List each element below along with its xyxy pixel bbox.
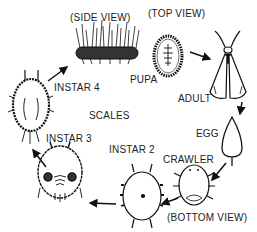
- adult-drawing: [210, 31, 246, 98]
- arrow-adult-to-egg: [240, 102, 242, 114]
- pupa-side-view-drawing: [76, 20, 139, 64]
- egg-drawing: [222, 117, 242, 166]
- instar-3-label: INSTAR 3: [46, 134, 92, 144]
- center-scales-label: SCALES: [89, 111, 130, 121]
- crawler-drawing: [173, 165, 215, 205]
- instar-2-drawing: [120, 164, 164, 228]
- instar-2-label: INSTAR 2: [109, 145, 155, 155]
- adult-label: ADULT: [178, 94, 211, 104]
- top-view-label: (TOP VIEW): [148, 9, 205, 19]
- arrow-instar2-to-instar3: [90, 203, 116, 204]
- bottom-view-label: (BOTTOM VIEW): [167, 213, 247, 223]
- pupa-top-view-drawing: [154, 36, 182, 76]
- arrow-pupa-to-adult: [190, 52, 210, 59]
- pupa-label: PUPA: [130, 75, 157, 85]
- egg-label: EGG: [196, 129, 219, 139]
- instar-3-drawing: [38, 142, 82, 202]
- arrow-instar4-to-pupa: [48, 67, 67, 81]
- arrow-crawler-to-instar2: [162, 198, 178, 204]
- arrow-egg-to-crawler: [212, 163, 226, 180]
- side-view-label: (SIDE VIEW): [70, 13, 131, 23]
- instar-4-label: INSTAR 4: [54, 83, 100, 93]
- crawler-label: CRAWLER: [163, 155, 214, 165]
